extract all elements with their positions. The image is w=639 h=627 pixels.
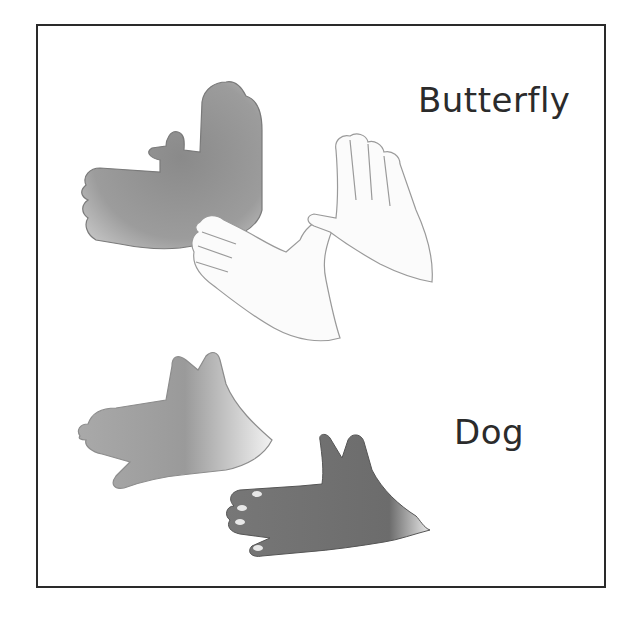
fingernail xyxy=(253,545,263,551)
dog-label: Dog xyxy=(454,412,524,452)
dog-shadow xyxy=(78,353,272,489)
fingernail xyxy=(237,505,247,511)
butterfly-shadow xyxy=(82,82,262,249)
butterfly-label: Butterfly xyxy=(418,80,570,120)
fingernail xyxy=(252,491,262,497)
fingernail xyxy=(235,519,245,525)
